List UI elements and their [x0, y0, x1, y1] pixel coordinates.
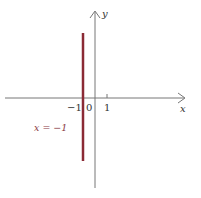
tick-label-neg1: −1 [67, 102, 82, 113]
tick-label-1: 1 [104, 102, 110, 113]
line-label: x = −1 [34, 122, 67, 133]
y-axis-label: y [101, 8, 108, 19]
coordinate-plot: x y −1 0 1 x = −1 [0, 0, 201, 198]
tick-label-0: 0 [86, 102, 92, 113]
x-axis-label: x [180, 103, 186, 114]
